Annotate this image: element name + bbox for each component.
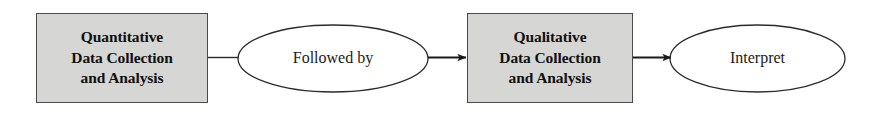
node-quantitative-line-3: and Analysis <box>81 68 164 88</box>
node-quantitative-line-1: Quantitative <box>81 27 163 47</box>
node-qualitative-data-collection: Qualitative Data Collection and Analysis <box>467 13 633 103</box>
node-quantitative-line-2: Data Collection <box>71 48 172 68</box>
ellipse-followed-by-outline <box>238 25 428 92</box>
flowchart-diagram: Quantitative Data Collection and Analysi… <box>0 0 880 115</box>
ellipse-interpret-outline <box>670 25 845 92</box>
node-qualitative-line-1: Qualitative <box>514 27 587 47</box>
node-quantitative-data-collection: Quantitative Data Collection and Analysi… <box>36 13 208 103</box>
node-qualitative-line-2: Data Collection <box>499 48 600 68</box>
node-qualitative-line-3: and Analysis <box>509 68 592 88</box>
